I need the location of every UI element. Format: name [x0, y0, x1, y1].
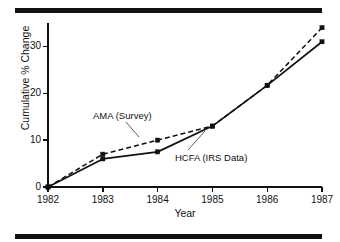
data-point-hcfa	[101, 157, 105, 161]
y-axis-title: Cumulative % Change	[19, 8, 31, 148]
x-tick-label: 1982	[28, 194, 68, 205]
data-point-hcfa	[320, 40, 324, 44]
data-point-hcfa	[156, 150, 160, 154]
data-point-ama	[156, 138, 160, 142]
series-annotation-ama: AMA (Survey)	[93, 110, 152, 121]
series-annotation-hcfa: HCFA (IRS Data)	[175, 152, 247, 163]
ama-leader-line	[126, 122, 139, 137]
x-tick-label: 1986	[247, 194, 287, 205]
data-point-ama	[320, 26, 324, 30]
series-line-hcfa	[48, 42, 322, 187]
x-tick-label: 1985	[192, 194, 232, 205]
x-tick-label: 1983	[83, 194, 123, 205]
plot-area	[0, 0, 340, 242]
data-point-ama	[101, 152, 105, 156]
data-series-group	[46, 26, 324, 190]
data-point-hcfa	[46, 185, 50, 189]
series-markers-ama	[46, 26, 324, 190]
x-tick-label: 1984	[138, 194, 178, 205]
x-axis-title: Year	[48, 207, 322, 219]
x-tick-label: 1987	[302, 194, 340, 205]
chart-figure: 0102030 198219831984198519861987 Cumulat…	[0, 0, 340, 242]
data-point-hcfa	[265, 83, 269, 87]
y-tick-label: 0	[15, 181, 41, 192]
data-point-hcfa	[210, 124, 214, 128]
series-line-ama	[48, 28, 322, 187]
axes-group	[43, 23, 322, 192]
